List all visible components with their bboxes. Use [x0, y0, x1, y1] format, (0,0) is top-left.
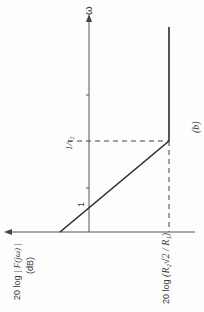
- corner-frequency-label: 1/τ₂: [64, 137, 74, 150]
- db-axis-label-expr: | F(jω) |: [12, 243, 22, 273]
- level-label-expr: (R₂√2 / R₁): [160, 233, 171, 277]
- omega-axis-label: ω: [82, 6, 94, 15]
- db-axis-arrow-icon: [4, 229, 12, 235]
- panel-label: (b): [190, 121, 201, 133]
- db-axis-unit: (dB): [25, 257, 35, 274]
- unity-tick-label: 1: [76, 202, 86, 207]
- omega-axis-arrow-icon: [86, 14, 92, 22]
- level-label-log: 20 log: [161, 279, 171, 304]
- db-axis-label-prefix: 20 log | F(jω) |: [12, 243, 22, 300]
- bode-plot-figure: ω 1/τ₂ 1 20 log | F(jω) | (dB) 20 log (R…: [0, 0, 204, 312]
- db-axis-label-log: 20 log: [12, 275, 22, 300]
- level-label: 20 log (R₂√2 / R₁): [160, 233, 171, 304]
